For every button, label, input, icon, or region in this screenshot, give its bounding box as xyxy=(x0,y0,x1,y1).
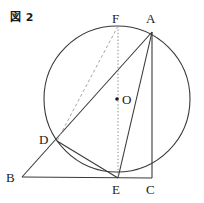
vertex-label-B: B xyxy=(6,171,15,184)
geometry-figure: 図 2 F A O D B E C xyxy=(0,0,204,203)
geometry-canvas xyxy=(0,0,204,203)
segment-B-A xyxy=(22,32,152,177)
vertex-label-E: E xyxy=(112,183,120,196)
vertex-label-C: C xyxy=(146,183,155,196)
vertex-label-A: A xyxy=(146,12,155,25)
segment-D-E xyxy=(57,141,118,178)
vertex-label-D: D xyxy=(39,133,48,146)
center-dot-O xyxy=(115,97,119,101)
segment-B-C xyxy=(22,177,152,178)
vertex-label-O: O xyxy=(122,93,131,106)
segment-F-D xyxy=(57,26,118,141)
vertex-label-F: F xyxy=(112,12,119,25)
